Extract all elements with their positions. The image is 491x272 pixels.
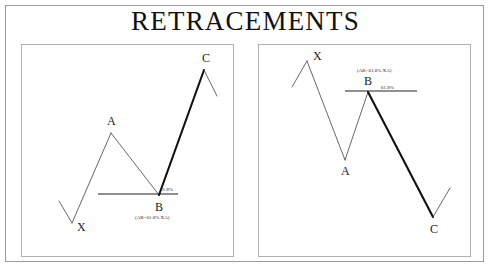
point-label-a: A xyxy=(341,164,350,178)
segment-xa-leg xyxy=(307,61,345,160)
point-label-b: B xyxy=(155,200,163,214)
segment-tail-out xyxy=(204,70,217,96)
segment-xa-leg xyxy=(72,133,111,223)
ratio-label: 61.8% xyxy=(160,187,173,192)
bullish-retracement-chart: X A B C 61.8% (AB=61.8% XA) xyxy=(22,45,233,256)
retracements-figure: RETRACEMENTS X A B C 61.8% (AB=61.8% XA) xyxy=(0,0,491,272)
point-label-x: X xyxy=(77,220,86,234)
segment-tail-out xyxy=(433,188,450,217)
point-label-c: C xyxy=(202,51,210,65)
segment-lead-in xyxy=(292,61,307,87)
price-path-bullish xyxy=(59,70,217,223)
chart-panel-bearish: X A B C 61.8% (AB=61.8% XA) xyxy=(258,44,471,257)
segment-lead-in xyxy=(59,201,72,223)
segment-ab-leg xyxy=(111,133,159,195)
point-label-c: C xyxy=(430,222,438,236)
formula-label: (AB=61.8% XA) xyxy=(135,215,170,220)
point-label-a: A xyxy=(107,114,116,128)
segment-ab-leg xyxy=(345,92,368,160)
point-label-x: X xyxy=(313,49,322,63)
formula-label: (AB=61.8% XA) xyxy=(357,68,392,73)
page-title: RETRACEMENTS xyxy=(0,5,491,37)
chart-panel-bullish: X A B C 61.8% (AB=61.8% XA) xyxy=(21,44,234,257)
bearish-retracement-chart: X A B C 61.8% (AB=61.8% XA) xyxy=(259,45,470,256)
segment-bc-leg xyxy=(368,92,433,217)
segment-bc-leg xyxy=(159,70,204,195)
point-label-b: B xyxy=(364,74,372,88)
ratio-label: 61.8% xyxy=(381,85,394,90)
